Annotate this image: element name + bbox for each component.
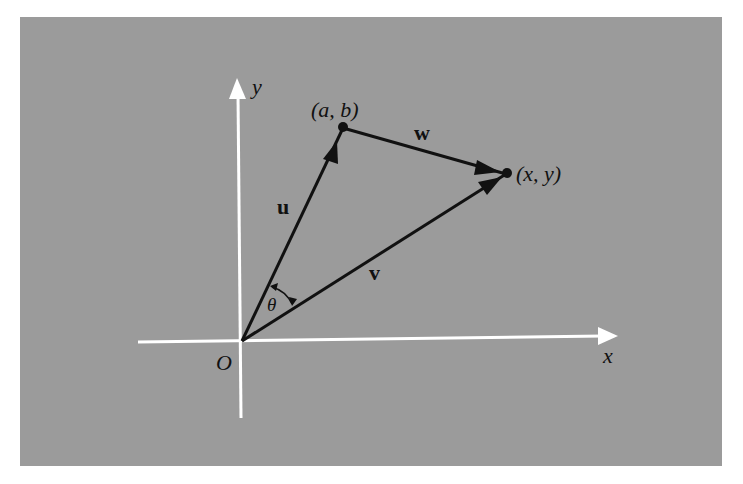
x-axis-label: x <box>602 343 613 368</box>
x-axis <box>138 327 618 345</box>
vector-w-label: w <box>414 120 430 145</box>
vector-v-arrowhead-icon <box>478 177 502 195</box>
y-axis-label: y <box>250 74 262 99</box>
point-xy-dot <box>502 168 512 178</box>
origin-label: O <box>216 350 232 375</box>
point-ab-label: (a, b) <box>311 97 359 122</box>
vector-u-arrowhead-icon <box>323 141 338 164</box>
vector-diagram: y x O (a, b) (x, y) u v w θ <box>0 0 743 484</box>
point-ab-dot <box>338 122 348 132</box>
y-axis-arrow-icon <box>229 78 246 99</box>
angle-theta-label: θ <box>267 294 276 315</box>
theta-arc-arrow-start-icon <box>270 283 278 291</box>
point-xy-label: (x, y) <box>516 161 561 186</box>
vector-u-label: u <box>277 194 289 219</box>
vector-v-label: v <box>369 260 380 285</box>
